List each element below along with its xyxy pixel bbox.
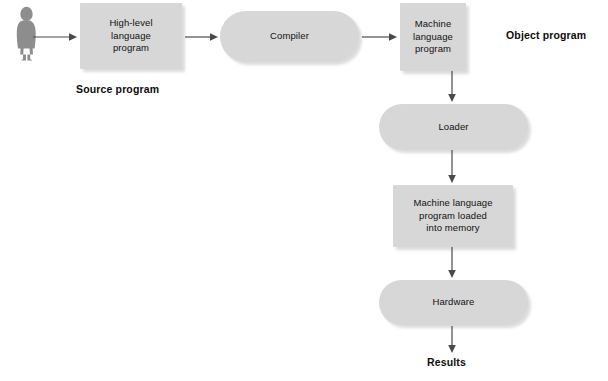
arrow-source-to-compiler	[185, 31, 220, 43]
arrow-loader-to-memory	[446, 150, 458, 186]
node-label: Machine language program loaded into mem…	[409, 197, 496, 235]
arrow-hardware-to-results	[446, 326, 458, 356]
node-machine-language-program[interactable]: Machine language program	[400, 3, 466, 71]
node-machine-language-program-loaded-into-memory[interactable]: Machine language program loaded into mem…	[393, 185, 513, 247]
node-hardware[interactable]: Hardware	[379, 280, 528, 325]
arrow-actor-to-source	[33, 31, 79, 43]
node-compiler[interactable]: Compiler	[220, 11, 359, 62]
node-high-level-language-program[interactable]: High-level language program	[80, 3, 182, 69]
node-label: High-level language program	[105, 17, 156, 55]
arrow-compiler-to-object	[362, 31, 399, 43]
node-label: Machine language program	[409, 18, 457, 56]
node-label: Loader	[434, 121, 472, 134]
object-program-caption: Object program	[506, 29, 586, 41]
arrow-memory-to-hardware	[446, 247, 458, 281]
node-loader[interactable]: Loader	[379, 104, 528, 150]
arrow-object-to-loader	[446, 71, 458, 105]
diagram-canvas: High-level language program Compiler Mac…	[0, 0, 608, 381]
results-caption: Results	[427, 356, 466, 368]
node-label: Hardware	[429, 296, 479, 309]
source-program-caption: Source program	[76, 83, 159, 95]
node-label: Compiler	[266, 30, 313, 43]
